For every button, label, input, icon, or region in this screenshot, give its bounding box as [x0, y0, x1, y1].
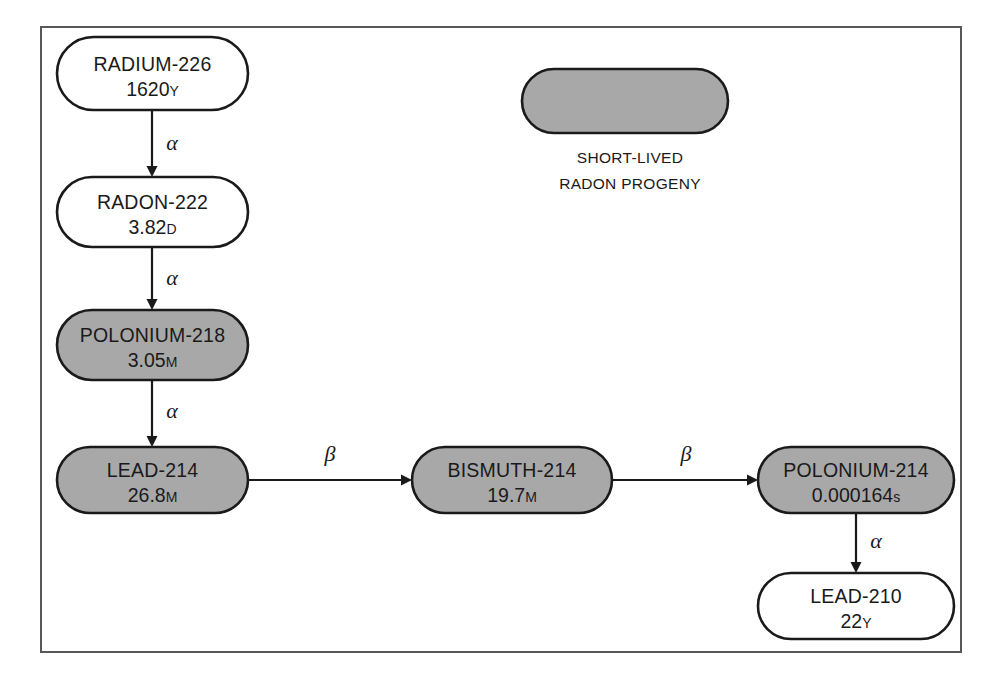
half-life-value: 22 — [840, 610, 862, 632]
edge-label-ra226-rn222: α — [166, 130, 178, 155]
half-life-unit: M — [166, 489, 178, 505]
nodes-layer: RADIUM-2261620YRADON-2223.82DPOLONIUM-21… — [57, 37, 954, 639]
arrowhead-icon — [147, 436, 158, 447]
half-life-unit: D — [166, 221, 176, 237]
edge-rn222-po218: α — [147, 247, 179, 310]
node-name: LEAD-210 — [810, 585, 902, 607]
arrowhead-icon — [147, 299, 158, 310]
half-life-value: 19.7 — [487, 484, 525, 506]
arrowhead-icon — [851, 562, 862, 573]
edge-label-rn222-po218: α — [166, 265, 178, 290]
legend-layer: SHORT-LIVEDRADON PROGENY — [522, 69, 728, 192]
node-polonium-214[interactable]: POLONIUM-2140.000164s — [758, 447, 954, 513]
node-name: POLONIUM-214 — [783, 459, 928, 481]
half-life-value: 26.8 — [128, 484, 166, 506]
legend-label-line2: RADON PROGENY — [559, 175, 701, 192]
edge-label-po214-pb210: α — [870, 528, 882, 553]
node-name: POLONIUM-218 — [80, 324, 225, 346]
half-life-value: 3.82 — [128, 216, 166, 238]
radon-decay-chain-figure: αααββα RADIUM-2261620YRADON-2223.82DPOLO… — [0, 0, 999, 698]
legend-label-line1: SHORT-LIVED — [577, 149, 683, 166]
arrowhead-icon — [747, 475, 758, 486]
node-name: BISMUTH-214 — [448, 459, 577, 481]
half-life-unit: M — [525, 489, 537, 505]
arrowhead-icon — [401, 475, 412, 486]
edge-label-bi214-po214: β — [680, 441, 692, 466]
half-life-value: 3.05 — [128, 349, 166, 371]
half-life-unit: s — [893, 489, 900, 505]
node-radon-222[interactable]: RADON-2223.82D — [57, 177, 248, 247]
edge-bi214-po214: β — [612, 441, 758, 486]
node-polonium-218[interactable]: POLONIUM-2183.05M — [57, 310, 248, 380]
node-name: RADON-222 — [97, 191, 208, 213]
half-life-unit: M — [166, 354, 178, 370]
node-radium-226[interactable]: RADIUM-2261620Y — [57, 37, 248, 110]
edge-po214-pb210: α — [851, 513, 883, 573]
edge-label-po218-pb214: α — [166, 398, 178, 423]
half-life-value: 0.000164 — [812, 484, 893, 506]
node-bismuth-214[interactable]: BISMUTH-21419.7M — [412, 447, 612, 513]
legend-swatch — [522, 69, 728, 133]
node-half-life: 0.000164s — [812, 484, 900, 506]
half-life-unit: Y — [862, 615, 872, 631]
node-name: LEAD-214 — [107, 459, 199, 481]
edge-label-pb214-bi214: β — [324, 441, 336, 466]
edge-po218-pb214: α — [147, 380, 179, 447]
node-lead-214[interactable]: LEAD-21426.8M — [57, 447, 248, 513]
edge-ra226-rn222: α — [147, 110, 179, 177]
half-life-value: 1620 — [126, 78, 170, 100]
arrowhead-icon — [147, 166, 158, 177]
diagram-canvas: αααββα RADIUM-2261620YRADON-2223.82DPOLO… — [0, 0, 999, 698]
node-name: RADIUM-226 — [94, 53, 212, 75]
half-life-unit: Y — [170, 83, 180, 99]
edge-pb214-bi214: β — [248, 441, 412, 486]
node-lead-210[interactable]: LEAD-21022Y — [758, 573, 954, 639]
